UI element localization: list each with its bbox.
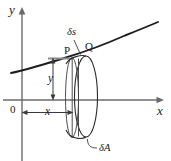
y-axis-arrowhead (19, 7, 26, 15)
point-p-label: P (64, 45, 70, 56)
x-axis-label: x (157, 104, 163, 117)
arc-label-leader (74, 40, 81, 55)
figure-container: y x 0 P Q δs δA x y (0, 0, 171, 161)
y-dimension-label: y (48, 73, 53, 85)
y-axis-label: y (9, 3, 15, 16)
area-element-label: δA (99, 143, 110, 154)
diagram-canvas (0, 0, 171, 161)
arc-element-label: δs (67, 27, 76, 38)
origin-label: 0 (10, 104, 16, 115)
disc-right-ellipse (75, 56, 98, 137)
x-dimension-label: x (45, 106, 50, 118)
disc-bottom-band (66, 130, 86, 138)
point-q-label: Q (85, 41, 93, 52)
area-label-leader (88, 139, 98, 148)
